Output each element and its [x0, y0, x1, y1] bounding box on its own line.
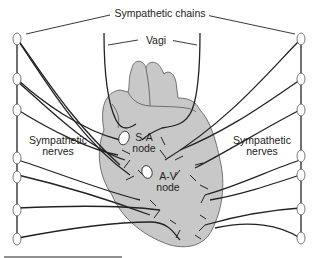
label-vagi: Vagi [139, 35, 173, 46]
label-sympathetic-nerves-left-2: nerves [26, 146, 90, 157]
heart [99, 61, 222, 247]
label-sympathetic-nerves-right-2: nerves [230, 146, 294, 157]
label-sympathetic-chains: Sympathetic chains [111, 8, 209, 19]
label-sa-node-2: node [130, 143, 158, 154]
label-av-node-2: node [154, 182, 182, 193]
